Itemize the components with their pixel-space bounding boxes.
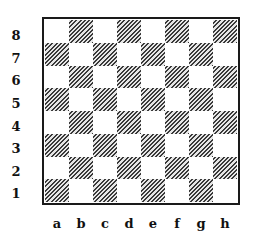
rank-label-2: 2 [8, 165, 24, 178]
square-e2 [141, 157, 165, 180]
square-h6 [213, 66, 237, 89]
square-c8 [93, 20, 117, 43]
square-f6 [165, 66, 189, 89]
square-c7 [93, 43, 117, 66]
square-g3 [189, 134, 213, 157]
chessboard [42, 17, 240, 205]
square-d3 [117, 134, 141, 157]
square-g1 [189, 179, 213, 202]
file-label-g: g [193, 217, 209, 230]
file-label-c: c [97, 217, 113, 230]
square-f7 [165, 43, 189, 66]
square-h8 [213, 20, 237, 43]
square-a5 [45, 88, 69, 111]
square-a7 [45, 43, 69, 66]
square-b3 [69, 134, 93, 157]
square-a2 [45, 157, 69, 180]
square-g5 [189, 88, 213, 111]
square-b8 [69, 20, 93, 43]
square-g6 [189, 66, 213, 89]
square-b5 [69, 88, 93, 111]
square-e5 [141, 88, 165, 111]
square-a3 [45, 134, 69, 157]
square-c5 [93, 88, 117, 111]
rank-label-3: 3 [8, 142, 24, 155]
rank-label-4: 4 [8, 120, 24, 133]
square-b4 [69, 111, 93, 134]
square-h7 [213, 43, 237, 66]
square-d5 [117, 88, 141, 111]
square-f1 [165, 179, 189, 202]
square-d4 [117, 111, 141, 134]
rank-label-6: 6 [8, 74, 24, 87]
square-b7 [69, 43, 93, 66]
rank-label-7: 7 [8, 52, 24, 65]
square-g7 [189, 43, 213, 66]
square-f8 [165, 20, 189, 43]
square-e4 [141, 111, 165, 134]
square-e6 [141, 66, 165, 89]
square-b1 [69, 179, 93, 202]
square-g2 [189, 157, 213, 180]
chessboard-grid [45, 20, 237, 202]
file-label-h: h [217, 217, 233, 230]
square-e8 [141, 20, 165, 43]
square-d8 [117, 20, 141, 43]
file-label-d: d [121, 217, 137, 230]
file-label-e: e [145, 217, 161, 230]
square-a8 [45, 20, 69, 43]
square-b6 [69, 66, 93, 89]
square-g8 [189, 20, 213, 43]
file-label-a: a [49, 217, 65, 230]
square-c1 [93, 179, 117, 202]
square-d7 [117, 43, 141, 66]
file-label-f: f [169, 217, 185, 230]
square-g4 [189, 111, 213, 134]
square-c2 [93, 157, 117, 180]
square-h1 [213, 179, 237, 202]
square-e1 [141, 179, 165, 202]
square-h4 [213, 111, 237, 134]
rank-label-5: 5 [8, 97, 24, 110]
square-c4 [93, 111, 117, 134]
square-a4 [45, 111, 69, 134]
file-label-b: b [73, 217, 89, 230]
square-a6 [45, 66, 69, 89]
square-d2 [117, 157, 141, 180]
square-f5 [165, 88, 189, 111]
square-d1 [117, 179, 141, 202]
square-h3 [213, 134, 237, 157]
square-a1 [45, 179, 69, 202]
square-f4 [165, 111, 189, 134]
square-f3 [165, 134, 189, 157]
rank-label-1: 1 [8, 187, 24, 200]
square-d6 [117, 66, 141, 89]
square-e7 [141, 43, 165, 66]
square-e3 [141, 134, 165, 157]
square-b2 [69, 157, 93, 180]
square-f2 [165, 157, 189, 180]
rank-label-8: 8 [8, 29, 24, 42]
square-c3 [93, 134, 117, 157]
square-h5 [213, 88, 237, 111]
square-h2 [213, 157, 237, 180]
square-c6 [93, 66, 117, 89]
